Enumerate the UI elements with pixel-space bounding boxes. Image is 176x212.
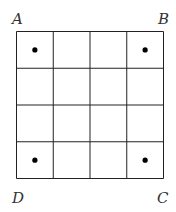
corner-label-a: A [12, 12, 23, 27]
grid-lines [17, 32, 164, 179]
dot-marker [32, 47, 37, 52]
dot-marker [32, 158, 37, 163]
dot-marker [143, 158, 148, 163]
grid-diagram [0, 0, 176, 212]
corner-label-d: D [12, 191, 24, 206]
corner-label-c: C [157, 191, 168, 206]
corner-label-b: B [158, 12, 169, 27]
dot-marker [143, 47, 148, 52]
